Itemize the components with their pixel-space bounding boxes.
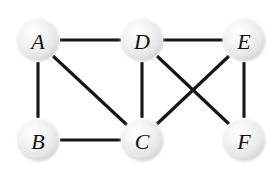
node-f-label: F — [236, 129, 251, 154]
node-a[interactable]: A — [17, 19, 60, 62]
node-a-label: A — [29, 29, 45, 54]
graph-figure: A D E B C F — [0, 0, 279, 173]
graph-canvas: A D E B C F — [0, 0, 279, 173]
node-b-label: B — [31, 129, 44, 154]
node-e[interactable]: E — [223, 19, 266, 62]
node-c[interactable]: C — [121, 119, 164, 162]
edge-a-c — [53, 56, 127, 125]
node-f[interactable]: F — [223, 119, 266, 162]
node-e-label: E — [236, 29, 251, 54]
node-c-label: C — [135, 129, 150, 154]
node-d-label: D — [133, 29, 150, 54]
node-d[interactable]: D — [121, 19, 164, 62]
node-b[interactable]: B — [17, 119, 60, 162]
